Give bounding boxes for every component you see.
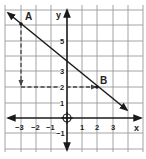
tick-y-neg1: −1 [56, 129, 65, 138]
tick-x-neg3: −3 [15, 123, 24, 132]
tick-x-neg1: −1 [46, 123, 55, 132]
tick-x-3: 3 [111, 123, 115, 132]
y-axis-label: y [56, 10, 61, 20]
point-b [95, 85, 99, 89]
x-axis-label: x [134, 123, 139, 133]
tick-x-neg2: −2 [31, 123, 40, 132]
tick-y-2: 2 [60, 83, 64, 92]
tick-y-3: 3 [60, 67, 64, 76]
coordinate-plane: A B y x 5 3 2 1 −1 −3 −2 −1 1 2 3 [0, 0, 146, 159]
tick-x-2: 2 [95, 123, 99, 132]
origin-marker-icon [61, 112, 73, 124]
point-a [19, 22, 23, 26]
point-b-label: B [100, 75, 107, 86]
tick-x-1: 1 [80, 123, 84, 132]
point-a-label: A [25, 11, 32, 22]
tick-y-5: 5 [60, 37, 64, 46]
tick-y-1: 1 [60, 99, 64, 108]
